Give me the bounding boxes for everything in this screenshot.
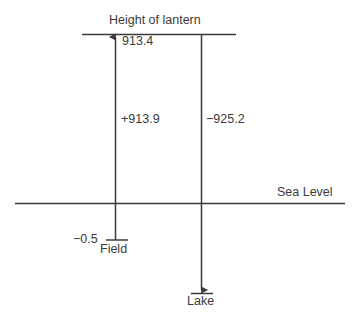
- field-label: Field: [100, 243, 127, 256]
- lake-drop-value: −925.2: [206, 113, 245, 126]
- sea-level-label: Sea Level: [277, 186, 333, 199]
- lake-label: Lake: [187, 295, 214, 308]
- lantern-height-value: 913.4: [122, 35, 153, 48]
- diagram-canvas: [0, 0, 355, 322]
- field-elevation-value: −0.5: [73, 233, 98, 246]
- field-rise-value: +913.9: [121, 113, 160, 126]
- elevation-diagram: Height of lantern 913.4 +913.9 −925.2 Se…: [0, 0, 355, 322]
- page-title: Height of lantern: [109, 14, 201, 27]
